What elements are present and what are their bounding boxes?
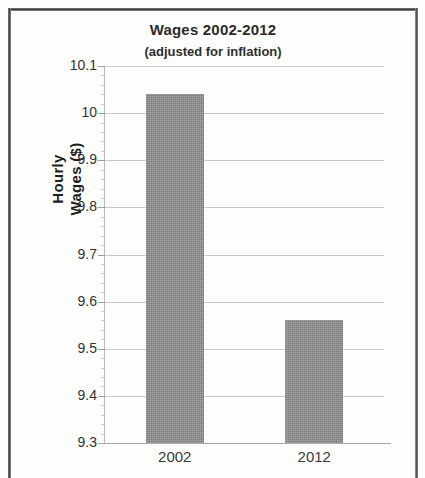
y-axis-minor-tick: [101, 358, 105, 359]
y-axis-minor-tick: [101, 132, 105, 133]
y-axis-minor-tick: [101, 245, 105, 246]
y-axis-tick: [98, 113, 105, 114]
y-axis-minor-tick: [101, 151, 105, 152]
y-axis-tick-label: 9.9: [27, 151, 97, 167]
y-axis-minor-tick: [101, 339, 105, 340]
y-axis-tick-label: 9.5: [27, 340, 97, 356]
y-axis-minor-tick: [101, 264, 105, 265]
y-axis-minor-tick: [101, 179, 105, 180]
y-axis-tick-label: 10.1: [27, 57, 97, 73]
y-axis-minor-tick: [101, 311, 105, 312]
y-axis-tick-label: 10: [27, 104, 97, 120]
y-axis-tick-label: 9.6: [27, 293, 97, 309]
y-axis-tick: [98, 255, 105, 256]
y-axis-tick: [98, 396, 105, 397]
y-axis-minor-tick: [101, 386, 105, 387]
y-axis-tick-label: 9.4: [27, 387, 97, 403]
y-axis-minor-tick: [101, 283, 105, 284]
y-axis-minor-tick: [101, 104, 105, 105]
y-axis-minor-tick: [101, 273, 105, 274]
plot-area: [105, 66, 384, 443]
y-axis-tick: [98, 207, 105, 208]
y-axis-minor-tick: [101, 424, 105, 425]
y-axis-minor-tick: [101, 292, 105, 293]
bar: [146, 94, 204, 443]
page-border-right: [415, 8, 418, 478]
bar-chart: Wages 2002-2012 (adjusted for inflation)…: [11, 11, 415, 473]
y-axis-minor-tick: [101, 123, 105, 124]
y-axis-minor-tick: [101, 170, 105, 171]
y-axis-minor-tick: [101, 85, 105, 86]
x-axis-tick-label: 2012: [245, 448, 385, 465]
y-axis-tick: [98, 66, 105, 67]
chart-title: Wages 2002-2012: [11, 21, 415, 38]
y-axis-minor-tick: [101, 226, 105, 227]
y-axis-minor-tick: [101, 368, 105, 369]
y-axis-minor-tick: [101, 189, 105, 190]
y-axis-minor-tick: [101, 330, 105, 331]
y-axis-tick: [98, 349, 105, 350]
y-axis-minor-tick: [101, 377, 105, 378]
y-axis-minor-tick: [101, 75, 105, 76]
y-axis-minor-tick: [101, 320, 105, 321]
y-axis-tick-label: 9.7: [27, 246, 97, 262]
y-axis-tick: [98, 160, 105, 161]
bar: [285, 320, 343, 443]
y-axis-tick: [98, 302, 105, 303]
x-axis-tick-label: 2002: [105, 448, 245, 465]
y-axis-tick-labels: 10.1109.99.89.79.69.59.49.3: [11, 66, 97, 444]
y-axis-tick-label: 9.8: [27, 198, 97, 214]
y-axis-minor-tick: [101, 94, 105, 95]
gridline: [105, 66, 384, 67]
y-axis-minor-tick: [101, 236, 105, 237]
y-axis-minor-tick: [101, 141, 105, 142]
scanned-page: Wages 2002-2012 (adjusted for inflation)…: [0, 0, 425, 478]
y-axis-minor-tick: [101, 217, 105, 218]
y-axis-minor-tick: [101, 405, 105, 406]
y-axis-minor-tick: [101, 198, 105, 199]
y-axis-minor-tick: [101, 415, 105, 416]
y-axis-tick-label: 9.3: [27, 434, 97, 450]
y-axis-minor-tick: [101, 434, 105, 435]
x-axis-line: [99, 443, 391, 444]
